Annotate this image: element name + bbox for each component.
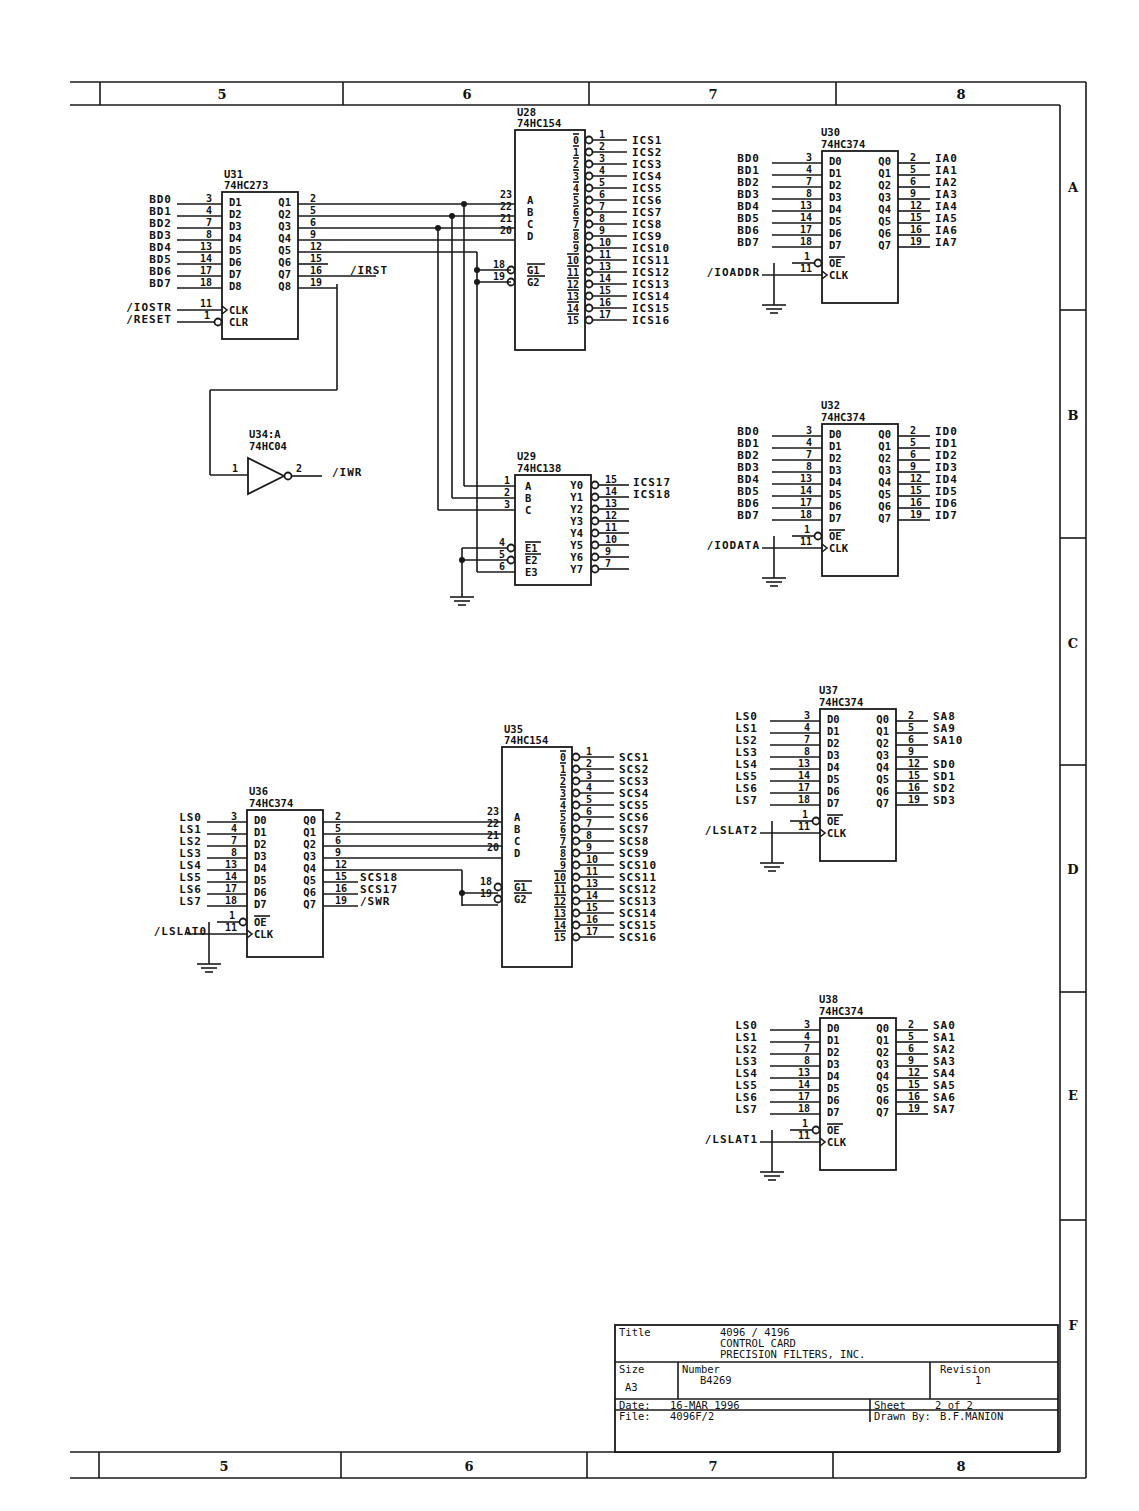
pin-name: G2: [514, 893, 527, 905]
inversion-bubble: [573, 898, 580, 905]
pin-number: 7: [806, 176, 812, 187]
inversion-bubble: [586, 269, 593, 276]
pin-name: Y2: [570, 503, 583, 515]
inversion-bubble: [813, 1127, 820, 1134]
pin-name: D2: [827, 737, 840, 749]
inversion-bubble: [573, 838, 580, 845]
pin-name: D0: [829, 155, 842, 167]
pin-number: 8: [804, 1055, 810, 1066]
pin-number: 13: [798, 758, 810, 769]
pin-number: 5: [586, 794, 592, 805]
pin-name: CLK: [829, 542, 849, 554]
pin-number: 18: [800, 509, 812, 520]
inversion-bubble: [573, 850, 580, 857]
pin-number: 5: [910, 437, 916, 448]
pin-number: 7: [231, 835, 237, 846]
inversion-bubble: [586, 173, 593, 180]
pin-name: G1: [527, 264, 540, 276]
inversion-bubble: [586, 185, 593, 192]
pin-name: Q7: [278, 268, 291, 280]
output-signal: IA7: [935, 236, 958, 249]
pin-number: 18: [800, 236, 812, 247]
pin-name: CLK: [254, 928, 274, 940]
title-block: Title4096 / 4196CONTROL CARDPRECISION FI…: [615, 1325, 1058, 1452]
ground-icon: [762, 305, 786, 313]
inversion-bubble: [573, 790, 580, 797]
pin-number: 21: [487, 830, 499, 841]
chip-u38: U3874HC3743LS0D0Q02SA04LS1D1Q15SA17LS2D2…: [705, 993, 956, 1180]
pin-number: 6: [335, 835, 341, 846]
chip-ref: U30: [821, 126, 840, 138]
pin-number: 7: [586, 818, 592, 829]
pin-name: Q6: [878, 227, 891, 239]
pin-number: 16: [335, 883, 347, 894]
pin-name: Q4: [878, 203, 891, 215]
zone-col-label: 7: [708, 87, 717, 102]
pin-number: 14: [225, 871, 237, 882]
output-signal: /IRST: [350, 264, 388, 277]
pin-number: 14: [605, 486, 617, 497]
pin-name: Q1: [878, 167, 891, 179]
pin-name: D4: [829, 203, 842, 215]
pin-name: A: [514, 811, 521, 823]
pin-name: D2: [829, 179, 842, 191]
pin-number: 9: [335, 847, 341, 858]
pin-number: 1: [204, 310, 210, 321]
pin-number: 8: [231, 847, 237, 858]
pin-number: 1: [232, 463, 238, 474]
pin-name: D5: [829, 215, 842, 227]
output-index: 0: [573, 135, 579, 146]
pin-number: 18: [225, 895, 237, 906]
junction-dot: [459, 557, 465, 563]
pin-number: 8: [804, 746, 810, 757]
inversion-bubble: [573, 922, 580, 929]
pin-name: Q8: [278, 280, 291, 292]
pin-name: D7: [254, 898, 267, 910]
output-signal: /IWR: [332, 466, 363, 479]
file-label: File:: [619, 1410, 651, 1422]
inversion-bubble: [815, 260, 822, 267]
chip-ref: U29: [517, 450, 536, 462]
pin-number: 2: [504, 487, 510, 498]
pin-number: 23: [487, 806, 499, 817]
pin-name: A: [525, 480, 532, 492]
zone-row-label: F: [1068, 1318, 1078, 1333]
pin-number: 5: [499, 549, 505, 560]
pin-name: D4: [254, 862, 267, 874]
output-index: 7: [573, 219, 579, 230]
chip-u30: U3074HC3743BD0D0Q02IA04BD1D1Q15IA17BD2D2…: [707, 126, 958, 313]
output-signal: ID7: [935, 509, 958, 522]
output-index: 1: [573, 147, 579, 158]
pin-number: 5: [908, 722, 914, 733]
pin-number: 6: [908, 1043, 914, 1054]
pin-name: Q4: [878, 476, 891, 488]
pin-name: CLK: [827, 1136, 847, 1148]
inversion-bubble: [573, 766, 580, 773]
pin-number: 13: [200, 241, 212, 252]
inversion-bubble: [573, 862, 580, 869]
pin-number: 4: [206, 205, 212, 216]
output-index: 11: [567, 267, 579, 278]
input-signal: LS7: [735, 794, 758, 807]
inversion-bubble: [592, 530, 599, 537]
pin-number: 9: [908, 746, 914, 757]
pin-number: 11: [798, 1130, 810, 1141]
pin-number: 9: [908, 1055, 914, 1066]
pin-name: E2: [525, 554, 538, 566]
chip-u35: U3574HC15423A22B21C20D18G119G201SCS112SC…: [480, 723, 657, 967]
pin-name: D7: [229, 268, 242, 280]
pin-name: G1: [514, 881, 527, 893]
inversion-bubble: [586, 233, 593, 240]
pin-name: OE: [829, 257, 842, 269]
pin-name: Q5: [878, 488, 891, 500]
inverter-triangle: [248, 458, 284, 494]
revision-label: Revision: [940, 1363, 991, 1375]
inversion-bubble: [586, 293, 593, 300]
pin-number: 7: [806, 449, 812, 460]
pin-number: 3: [806, 152, 812, 163]
zone-row-label: E: [1068, 1088, 1078, 1103]
pin-number: 17: [798, 1091, 810, 1102]
pin-number: 5: [908, 1031, 914, 1042]
input-signal: LS7: [735, 1103, 758, 1116]
pin-name: Q6: [303, 886, 316, 898]
